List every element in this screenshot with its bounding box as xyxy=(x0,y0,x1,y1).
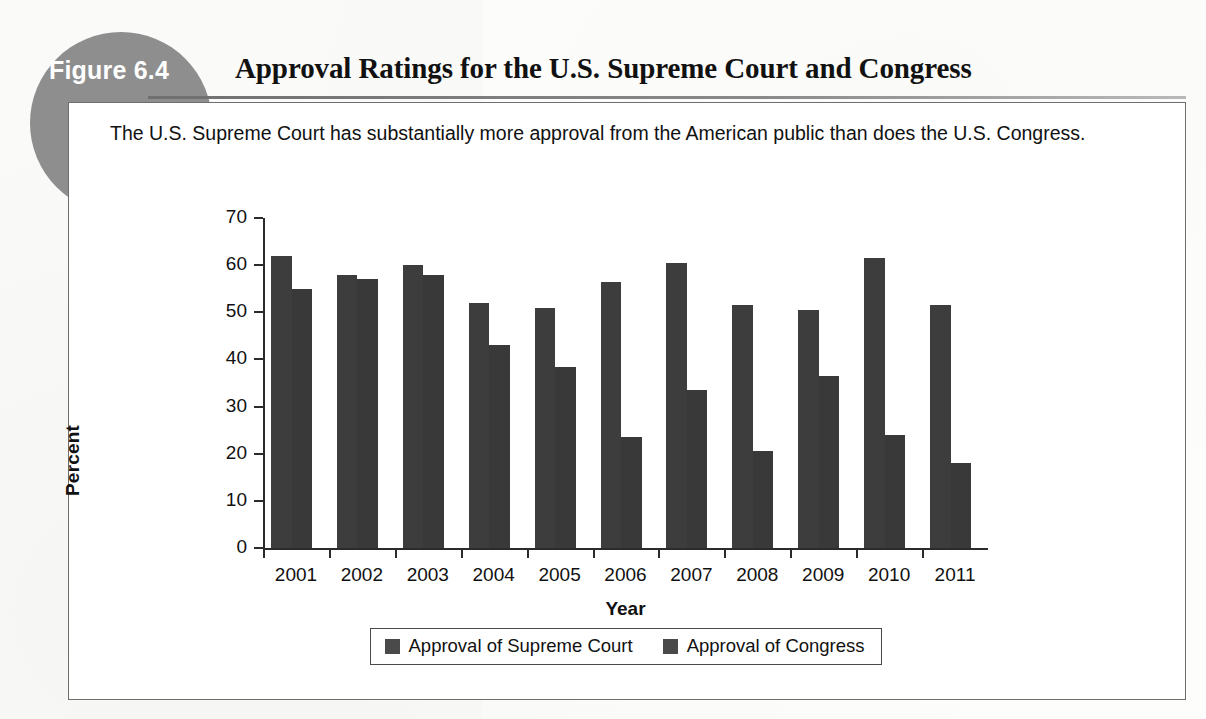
y-tick-label: 40 xyxy=(201,347,247,369)
x-tick-label: 2011 xyxy=(917,564,993,586)
bar-congress-2006 xyxy=(621,437,642,548)
x-tick xyxy=(461,548,463,558)
legend-item-congress: Approval of Congress xyxy=(663,635,865,657)
chart-legend: Approval of Supreme Court Approval of Co… xyxy=(370,628,882,665)
bar-congress-2005 xyxy=(555,367,576,549)
x-tick xyxy=(790,548,792,558)
y-tick xyxy=(254,547,263,549)
x-tick xyxy=(658,548,660,558)
bar-congress-2002 xyxy=(357,279,378,548)
legend-item-supreme-court: Approval of Supreme Court xyxy=(385,635,633,657)
bar-congress-2009 xyxy=(819,376,840,548)
y-tick xyxy=(254,453,263,455)
bar-supreme-court-2006 xyxy=(601,282,622,548)
x-tick-label: 2010 xyxy=(851,564,927,586)
legend-swatch-icon xyxy=(663,639,678,654)
y-tick xyxy=(254,500,263,502)
bar-supreme-court-2005 xyxy=(535,308,556,548)
bar-supreme-court-2001 xyxy=(271,256,292,548)
y-tick-label: 50 xyxy=(201,300,247,322)
x-tick-label: 2004 xyxy=(456,564,532,586)
bar-supreme-court-2004 xyxy=(469,303,490,548)
x-tick-label: 2009 xyxy=(785,564,861,586)
bar-chart: Percent Year 010203040506070 20012002200… xyxy=(68,196,1186,696)
bar-congress-2011 xyxy=(951,463,972,548)
y-axis-label: Percent xyxy=(62,425,84,496)
x-tick-label: 2005 xyxy=(522,564,598,586)
bar-supreme-court-2008 xyxy=(732,305,753,548)
y-tick xyxy=(254,217,263,219)
figure-caption: The U.S. Supreme Court has substantially… xyxy=(110,120,1150,147)
bar-supreme-court-2011 xyxy=(930,305,951,548)
x-tick xyxy=(856,548,858,558)
y-tick-label: 10 xyxy=(201,489,247,511)
x-tick-label: 2003 xyxy=(390,564,466,586)
y-tick xyxy=(254,358,263,360)
x-tick xyxy=(395,548,397,558)
y-axis-line xyxy=(263,218,265,548)
x-tick xyxy=(724,548,726,558)
bar-congress-2007 xyxy=(687,390,708,548)
bar-congress-2001 xyxy=(292,289,313,548)
bar-congress-2003 xyxy=(423,275,444,548)
y-tick-label: 30 xyxy=(201,395,247,417)
bar-supreme-court-2009 xyxy=(798,310,819,548)
legend-label-supreme-court: Approval of Supreme Court xyxy=(409,635,633,657)
bar-supreme-court-2007 xyxy=(666,263,687,548)
x-tick-label: 2007 xyxy=(653,564,729,586)
figure-title: Approval Ratings for the U.S. Supreme Co… xyxy=(235,52,972,85)
x-tick-label: 2006 xyxy=(588,564,664,586)
y-tick xyxy=(254,406,263,408)
plot-area: 010203040506070 200120022003200420052006… xyxy=(263,218,988,548)
figure-badge-label: Figure 6.4 xyxy=(49,56,169,85)
x-tick xyxy=(527,548,529,558)
legend-label-congress: Approval of Congress xyxy=(687,635,865,657)
x-tick-label: 2001 xyxy=(258,564,334,586)
title-divider xyxy=(148,96,1186,99)
y-tick-label: 60 xyxy=(201,253,247,275)
x-tick xyxy=(922,548,924,558)
x-axis-label: Year xyxy=(263,598,988,620)
y-tick-label: 20 xyxy=(201,442,247,464)
bar-congress-2008 xyxy=(753,451,774,548)
x-tick xyxy=(593,548,595,558)
x-tick-label: 2008 xyxy=(719,564,795,586)
bar-supreme-court-2010 xyxy=(864,258,885,548)
bar-congress-2004 xyxy=(489,345,510,548)
legend-swatch-icon xyxy=(385,639,400,654)
y-tick-label: 0 xyxy=(201,536,247,558)
y-tick xyxy=(254,264,263,266)
x-tick xyxy=(329,548,331,558)
bar-supreme-court-2002 xyxy=(337,275,358,548)
y-tick xyxy=(254,311,263,313)
y-tick-label: 70 xyxy=(201,206,247,228)
bar-congress-2010 xyxy=(885,435,906,548)
x-tick-label: 2002 xyxy=(324,564,400,586)
bar-supreme-court-2003 xyxy=(403,265,424,548)
x-tick xyxy=(263,548,265,558)
x-axis-line xyxy=(263,548,988,550)
